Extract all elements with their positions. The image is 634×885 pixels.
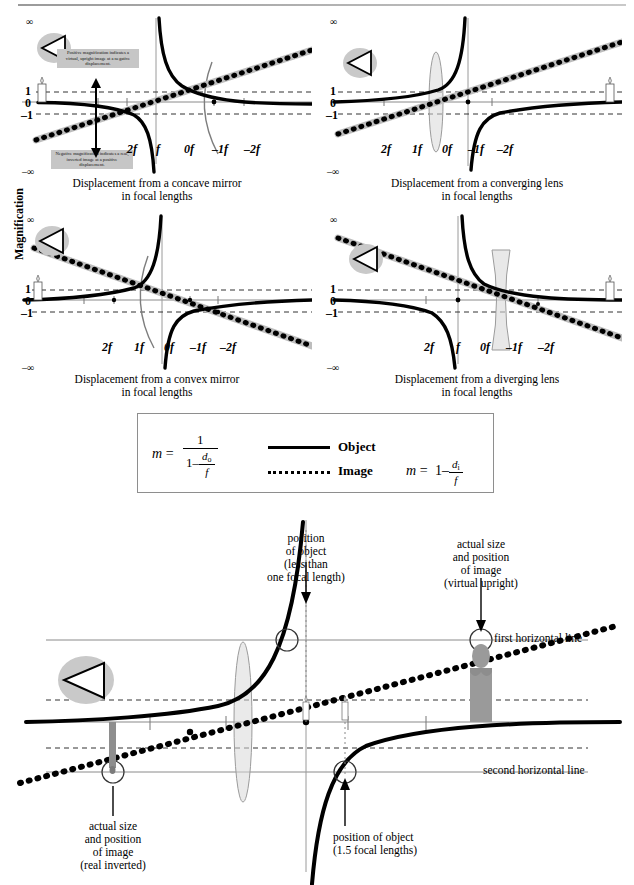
anno-object-bottom-line1: position of object [333, 831, 414, 845]
x-tick-2f-4: 2f [424, 340, 434, 355]
caption-converging-lens-1: Displacement from a converging lens [352, 177, 602, 190]
x-tick-0f-3: 0f [164, 340, 174, 355]
x-tick-neg1f-4: –1f [506, 340, 522, 355]
chart-converging-lens [332, 14, 622, 204]
x-tick-1f-2: 1f [412, 142, 422, 157]
caption-converging-lens-2: in focal lengths [352, 190, 602, 203]
object-den-lead: 1– [186, 455, 199, 470]
image-formula-sub: i [458, 463, 460, 472]
candle-icon [38, 77, 46, 102]
x-tick-neg1f-3: –1f [190, 340, 206, 355]
legend-object-label: Object [338, 439, 376, 455]
chart-concave-mirror [22, 14, 312, 204]
caption-concave-mirror-2: in focal lengths [32, 190, 282, 203]
caption-diverging-lens-2: in focal lengths [352, 386, 602, 399]
x-tick-neg2f-4: –2f [538, 340, 554, 355]
candle-icon [34, 275, 42, 300]
anno-object-top-line2: of object [246, 545, 366, 559]
anno-object-top-line1: position [246, 532, 366, 546]
candle-icon [606, 77, 614, 102]
x-tick-neg2f-3: –2f [220, 340, 236, 355]
image-formula-m: m [406, 463, 416, 478]
y-tick-neg1-1: –1 [21, 108, 33, 123]
eye-icon [346, 242, 386, 278]
y-tick-neg-inf-3: –∞ [22, 362, 34, 373]
top-divider [18, 4, 626, 6]
anno-object-bottom-line2: (1.5 focal lengths) [333, 844, 417, 858]
object-formula-eq: = [166, 446, 174, 461]
anno-image-bottom-line1: actual size [53, 820, 173, 834]
object-formula-denominator: 1–dof [183, 448, 218, 478]
image-formula-lead: 1– [435, 463, 449, 478]
legend-image-line-swatch [268, 471, 330, 474]
object-den-sub: o [208, 455, 212, 464]
x-tick-2f-3: 2f [102, 340, 112, 355]
anno-object-top-line3: (less than [246, 558, 366, 572]
y-tick-neg1-4: –1 [326, 306, 338, 321]
annotation-arrow-object-bottom [340, 778, 350, 826]
anno-second-horizontal-line: second horizontal line [483, 764, 585, 778]
x-tick-neg1f-2: –1f [468, 142, 484, 157]
x-tick-neg1f-1: –1f [212, 142, 228, 157]
detailed-ray-diagram: position of object (less than one focal … [0, 500, 634, 885]
anno-image-bottom-line4: (real inverted) [53, 859, 173, 873]
eye-icon [32, 224, 72, 260]
x-tick-f-1: f [156, 142, 160, 157]
real-inverted-image-figure [109, 722, 116, 774]
object-formula-numerator: 1 [183, 432, 218, 448]
anno-image-top-line2: and position [421, 551, 541, 565]
caption-convex-mirror-1: Displacement from a convex mirror [32, 373, 282, 386]
anno-object-top-line4: one focal length) [241, 571, 371, 585]
eye-icon [340, 46, 380, 82]
image-formula-den: f [454, 474, 457, 486]
y-tick-pos-inf-2: ∞ [330, 16, 337, 27]
y-tick-neg-inf-2: –∞ [327, 166, 339, 177]
x-tick-1f-3: 1f [134, 340, 144, 355]
image-formula-eq: = [420, 463, 428, 478]
anno-image-bottom-line3: of image [53, 846, 173, 860]
legend-box: m = 1 1–dof Object Image m = 1–dif [137, 413, 494, 493]
x-tick-0f-1: 0f [184, 142, 194, 157]
note-positive-magnification: Positive magnification indicates a virtu… [57, 49, 139, 68]
legend-image-label: Image [338, 463, 373, 479]
eye-icon [58, 656, 114, 704]
y-tick-pos-inf-3: ∞ [27, 214, 34, 225]
double-arrow-icon [90, 78, 102, 158]
object-den-den: f [205, 466, 208, 478]
anno-first-horizontal-line: first horizontal line [494, 632, 582, 646]
y-tick-neg1-3: –1 [21, 306, 33, 321]
x-tick-neg2f-2: –2f [497, 142, 513, 157]
y-tick-pos-inf-4: ∞ [330, 214, 337, 225]
y-tick-neg1-2: –1 [326, 108, 338, 123]
virtual-image-figure [470, 644, 492, 722]
y-tick-neg-inf-1: –∞ [22, 166, 34, 177]
x-tick-0f-2: 0f [442, 142, 452, 157]
anno-image-top-line1: actual size [421, 538, 541, 552]
x-tick-f-4: f [456, 340, 460, 355]
caption-concave-mirror-1: Displacement from a concave mirror [32, 177, 282, 190]
caption-convex-mirror-2: in focal lengths [32, 386, 282, 399]
caption-diverging-lens-1: Displacement from a diverging lens [352, 373, 602, 386]
x-tick-0f-4: 0f [480, 340, 490, 355]
anno-image-bottom-line2: and position [53, 833, 173, 847]
y-tick-neg-inf-4: –∞ [327, 362, 339, 373]
anno-image-top-line3: of image [421, 564, 541, 578]
y-tick-pos-inf-1: ∞ [26, 16, 33, 27]
legend-object-line-swatch [268, 446, 330, 449]
anno-image-top-line4: (virtual upright) [421, 577, 541, 591]
x-tick-2f-1: 2f [127, 142, 137, 157]
x-tick-2f-2: 2f [381, 142, 391, 157]
x-tick-neg2f-1: –2f [244, 142, 260, 157]
object-formula-m: m [152, 446, 162, 461]
candle-icon [606, 275, 614, 300]
